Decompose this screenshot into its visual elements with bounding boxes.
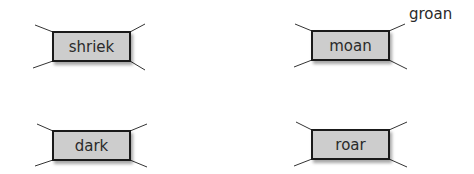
word-box-roar: roar [311,129,390,160]
word-label: dark [75,137,109,155]
word-label: moan [329,37,372,55]
word-label: shriek [69,38,115,56]
word-box-moan: moan [311,30,390,61]
word-box-shriek: shriek [52,31,131,62]
word-box-dark: dark [52,130,131,161]
answer-groan: groan [409,5,452,23]
word-label: roar [335,136,365,154]
